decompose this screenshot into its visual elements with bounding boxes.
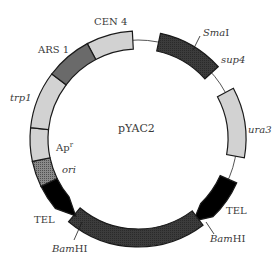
ura3-segment: [217, 88, 246, 157]
smai-label: SmaI: [203, 27, 229, 38]
sup4-segment: [157, 33, 219, 78]
trp1-segment: [31, 74, 67, 130]
cen4-segment: [87, 31, 133, 59]
ori-label: ori: [62, 164, 76, 175]
trp1-label: trp1: [10, 92, 32, 103]
bamhi-left-label: BamHI: [51, 243, 88, 254]
plasmid-name-label: pYAC2: [118, 122, 155, 135]
tel-right-label: TEL: [226, 205, 247, 216]
segments-group: [30, 31, 246, 247]
cen4-label: CEN 4: [94, 16, 127, 27]
apr-label: Apr: [55, 141, 74, 153]
plasmid-map: pYAC2 CEN 4 ARS 1 trp1 Apr ori TEL BamHI…: [0, 0, 278, 265]
sup4-label: sup4: [221, 54, 245, 65]
apr-segment: [30, 128, 50, 162]
tel-left-label: TEL: [34, 214, 55, 225]
ars1-label: ARS 1: [37, 44, 69, 55]
ura3-label: ura3: [248, 124, 272, 135]
bamhi-stuffer-segment: [69, 208, 203, 247]
bamhi-right-label: BamHI: [209, 233, 246, 244]
